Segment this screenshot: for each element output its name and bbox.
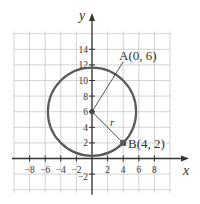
radius-label: r — [110, 116, 115, 128]
x-tick-label: −8 — [25, 165, 35, 175]
x-tick-label: −4 — [56, 165, 66, 175]
y-tick-label: −2 — [78, 172, 88, 182]
x-tick-label: 4 — [121, 165, 126, 175]
point-b-label: B(4, 2) — [128, 136, 165, 151]
point-b — [120, 140, 126, 146]
x-tick-label: 6 — [136, 165, 141, 175]
y-tick-label: 14 — [79, 45, 89, 55]
y-axis-label: y — [77, 8, 86, 23]
y-tick-label: 2 — [83, 138, 88, 148]
point-a — [89, 109, 94, 114]
x-tick-label: −6 — [40, 165, 50, 175]
x-tick-label: 2 — [105, 165, 110, 175]
y-tick-label: 4 — [83, 123, 88, 133]
y-tick-label: 8 — [83, 92, 88, 102]
axes — [12, 13, 189, 195]
y-tick-label: 6 — [83, 107, 88, 117]
y-tick-label: 10 — [79, 76, 89, 86]
x-axis-label: x — [182, 163, 190, 178]
coordinate-plane-diagram: −8−6−4−22468−22468101214 A(0, 6) B(4, 2)… — [0, 0, 200, 204]
point-a-label: A(0, 6) — [119, 48, 157, 63]
x-tick-label: 8 — [152, 165, 157, 175]
